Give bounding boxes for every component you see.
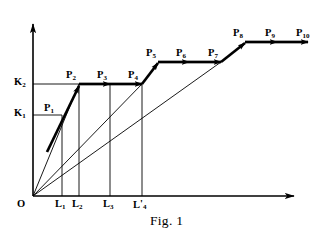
axis-label-k1: K1 <box>14 108 26 120</box>
figure-1-diagram: O K1 K2 L1 L2 L3 L'4 P1 P2 P3 P4 P5 P6 P… <box>0 0 330 240</box>
ray-2 <box>33 84 142 196</box>
axis-label-origin: O <box>17 199 25 210</box>
axis-label-l1: L1 <box>55 199 66 211</box>
segment-p7-to-p8 <box>221 43 245 62</box>
segment-p4-to-p5 <box>142 63 158 84</box>
axis-label-k2: K2 <box>14 77 26 89</box>
axis-label-l2: L2 <box>72 199 83 211</box>
point-label-p5: P5 <box>146 48 156 60</box>
point-label-p8: P8 <box>233 28 243 40</box>
x-drop-lines <box>62 84 142 196</box>
figure-caption: Fig. 1 <box>150 213 183 229</box>
axis-lines <box>33 24 294 196</box>
axis-label-l3: L3 <box>103 199 114 211</box>
point-label-p1: P1 <box>44 103 54 115</box>
point-label-p10: P10 <box>296 28 309 40</box>
diagram-canvas <box>0 0 330 240</box>
segment-origin-to-p2 <box>47 86 79 152</box>
axis-label-l4-prime: L'4 <box>133 199 146 211</box>
point-label-p2: P2 <box>66 70 76 82</box>
point-label-p7: P7 <box>208 48 218 60</box>
point-label-p4: P4 <box>128 70 138 82</box>
point-label-p6: P6 <box>176 48 186 60</box>
point-label-p9: P9 <box>265 28 275 40</box>
point-label-p3: P3 <box>97 70 107 82</box>
